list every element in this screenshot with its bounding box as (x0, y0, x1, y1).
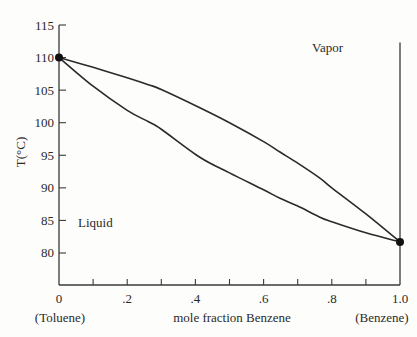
right-endpoint-label: (Benzene) (355, 310, 408, 325)
y-tick-label: 95 (41, 148, 54, 163)
y-tick-label: 105 (35, 83, 55, 98)
y-tick-label: 80 (41, 245, 54, 260)
labels: T(°C) mole fraction Benzene (Toluene) (B… (13, 40, 409, 325)
phase-diagram-chart: 808590951001051101150.2.4.6.81.0 T(°C) m… (0, 0, 417, 337)
left-endpoint-label: (Toluene) (35, 310, 85, 325)
x-axis-label: mole fraction Benzene (173, 310, 291, 325)
y-tick-label: 115 (35, 18, 54, 33)
y-axis-label: T(°C) (13, 137, 28, 167)
vapor-region-label: Vapor (312, 40, 344, 55)
y-tick-label: 100 (35, 115, 55, 130)
benzene-boiling-point-marker (396, 238, 404, 246)
liquid-region-label: Liquid (78, 215, 113, 230)
x-tick-label: 1.0 (392, 291, 408, 306)
x-tick-label: .6 (259, 291, 269, 306)
y-tick-label: 85 (41, 213, 54, 228)
y-tick-label: 110 (35, 50, 54, 65)
y-tick-label: 90 (41, 180, 54, 195)
x-tick-label: 0 (56, 291, 63, 306)
x-tick-label: .4 (191, 291, 201, 306)
axes: 808590951001051101150.2.4.6.81.0 (35, 18, 409, 307)
x-tick-label: .8 (327, 291, 337, 306)
toluene-boiling-point-marker (55, 54, 63, 62)
x-tick-label: .2 (122, 291, 132, 306)
